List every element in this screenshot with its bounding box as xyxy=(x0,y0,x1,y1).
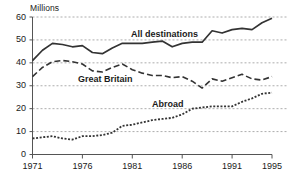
y-tick-label-10: 10 xyxy=(6,127,26,136)
y-tick-label-30: 30 xyxy=(6,81,26,90)
y-tick-label-60: 60 xyxy=(6,13,26,22)
x-tick-marks-group xyxy=(33,155,273,159)
x-tick-label-1971: 1971 xyxy=(16,162,50,171)
chart-plot-area xyxy=(0,0,287,178)
series-label-all-destinations: All destinations xyxy=(131,30,198,39)
x-tick-label-1991: 1991 xyxy=(215,162,249,171)
series-label-abroad: Abroad xyxy=(152,100,184,109)
x-tick-label-1995: 1995 xyxy=(255,162,287,171)
x-tick-label-1976: 1976 xyxy=(65,162,99,171)
travel-trends-line-chart: Millions 6050403020100 19711976198119861… xyxy=(0,0,287,178)
x-tick-label-1981: 1981 xyxy=(115,162,149,171)
series-label-great-britain: Great Britain xyxy=(78,75,133,84)
y-tick-label-20: 20 xyxy=(6,104,26,113)
y-tick-label-0: 0 xyxy=(6,150,26,159)
series-line-great-britain xyxy=(33,61,273,89)
x-tick-label-1986: 1986 xyxy=(165,162,199,171)
y-tick-label-50: 50 xyxy=(6,35,26,44)
series-line-all-destinations xyxy=(33,18,273,60)
y-tick-label-40: 40 xyxy=(6,58,26,67)
